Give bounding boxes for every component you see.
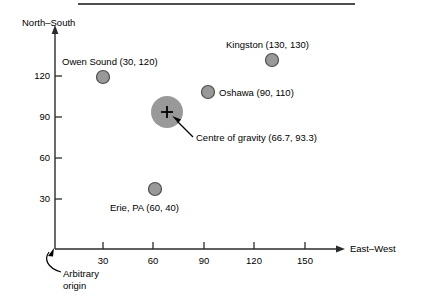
scatter-plot-canvas bbox=[0, 0, 421, 305]
x-tick-label-120: 120 bbox=[246, 255, 262, 266]
data-label-owen-sound: Owen Sound (30, 120) bbox=[62, 56, 158, 67]
x-tick-label-150: 150 bbox=[297, 255, 313, 266]
data-label-erie-pa: Erie, PA (60, 40) bbox=[110, 202, 179, 213]
arbitrary-origin-note: Arbitrary origin bbox=[63, 268, 99, 291]
data-point-kingston[interactable] bbox=[266, 54, 279, 67]
data-label-kingston: Kingston (130, 130) bbox=[226, 39, 309, 50]
arbitrary-origin-leader-line bbox=[47, 248, 61, 272]
x-axis-title: East–West bbox=[350, 243, 396, 254]
x-axis-ticks bbox=[103, 242, 305, 249]
data-point-oshawa[interactable] bbox=[202, 86, 215, 99]
x-axis-arrowhead-icon bbox=[336, 246, 345, 253]
centre-of-gravity-label: Centre of gravity (66.7, 93.3) bbox=[196, 132, 317, 143]
data-point-owen-sound[interactable] bbox=[97, 71, 110, 84]
y-axis-title: North–South bbox=[22, 17, 75, 28]
centre-of-gravity-leader-line bbox=[172, 116, 193, 137]
y-axis-ticks bbox=[55, 76, 62, 199]
x-tick-label-90: 90 bbox=[199, 255, 210, 266]
arbitrary-origin-note-line2: origin bbox=[63, 280, 99, 292]
y-tick-label-120: 120 bbox=[18, 70, 50, 81]
x-tick-label-30: 30 bbox=[98, 255, 109, 266]
y-tick-label-30: 30 bbox=[18, 193, 50, 204]
data-point-erie-pa[interactable] bbox=[149, 183, 162, 196]
arbitrary-origin-note-line1: Arbitrary bbox=[63, 268, 99, 280]
y-tick-label-60: 60 bbox=[18, 152, 50, 163]
y-tick-label-90: 90 bbox=[18, 111, 50, 122]
data-label-oshawa: Oshawa (90, 110) bbox=[219, 87, 294, 98]
x-tick-label-60: 60 bbox=[148, 255, 159, 266]
figure-container: North–South East–West 120 90 60 30 30 60… bbox=[0, 0, 421, 305]
